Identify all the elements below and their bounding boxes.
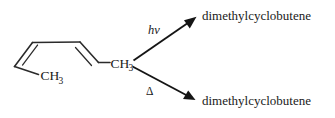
methyl-label-left: CH xyxy=(41,68,60,83)
arrowhead-photochemical xyxy=(184,17,197,29)
methyl-label-right-subscript: 3 xyxy=(129,63,134,73)
product-label-photochemical: dimethylcyclobutene xyxy=(202,8,311,23)
reaction-diagram-svg: CH 3 CH 3 hv dimethylcyclobutene Δ dimet… xyxy=(0,0,335,118)
reactant-structure: CH 3 CH 3 xyxy=(15,42,134,86)
methyl-label-left-subscript: 3 xyxy=(59,76,64,86)
bond-double-right-outer xyxy=(80,42,99,63)
bond-methyl-left xyxy=(15,67,39,75)
pathway-photochemical: hv dimethylcyclobutene xyxy=(134,8,312,61)
reaction-arrow-thermal xyxy=(133,67,189,97)
bond-double-left-inner xyxy=(23,45,38,65)
methyl-label-right: CH xyxy=(111,56,130,71)
condition-label-thermal: Δ xyxy=(146,85,153,97)
condition-label-photochemical: hv xyxy=(148,23,160,37)
pathway-thermal: Δ dimethylcyclobutene xyxy=(133,67,312,109)
bond-double-right-inner xyxy=(76,48,92,66)
product-label-thermal: dimethylcyclobutene xyxy=(202,93,311,108)
bond-single-center xyxy=(33,42,81,43)
reaction-arrow-photochemical xyxy=(134,22,191,61)
reaction-scheme: CH 3 CH 3 hv dimethylcyclobutene Δ dimet… xyxy=(0,0,335,118)
